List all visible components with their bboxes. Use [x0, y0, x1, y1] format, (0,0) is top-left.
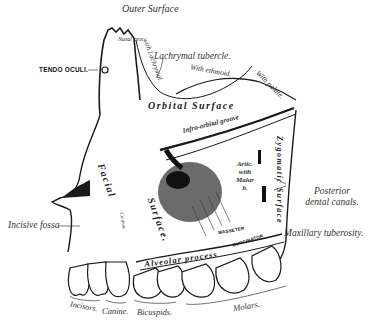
diagram-title: Outer Surface [122, 3, 178, 14]
maxilla-illustration [0, 0, 381, 325]
label-tendo-oculi: TENDO OCULI. [39, 66, 88, 73]
label-lachrymal-tubercle: Lachrymal tubercle. [154, 51, 231, 61]
label-maxillary-tuberosity: Maxillary tuberosity. [284, 228, 363, 238]
label-incisive-fossa: Incisive fossa [8, 220, 59, 230]
label-bicuspids: Bicuspids. [137, 307, 172, 317]
label-zygomatic-surface: Zygomatic Surface [275, 136, 284, 224]
label-orbital-surface: Orbital Surface [148, 100, 235, 111]
label-nasal-process: Nasal proc. [118, 36, 146, 42]
label-posterior-dental-canals: Posterior dental canals. [302, 186, 362, 208]
label-canine: Canine. [102, 306, 129, 316]
label-artic-with-malar: Artic. with Malar b. [234, 160, 256, 192]
